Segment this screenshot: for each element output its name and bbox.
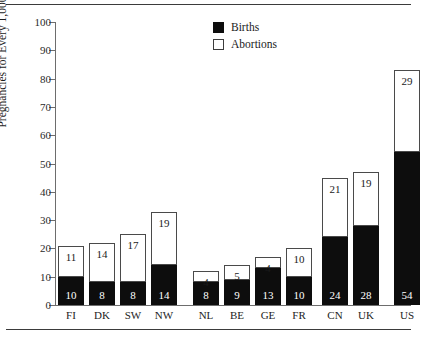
- y-axis-tick-label: 30: [40, 212, 51, 228]
- bar-value-births: 13: [256, 289, 280, 301]
- x-axis-tick-label-us: US: [387, 308, 424, 322]
- bar-nl[interactable]: 84: [193, 271, 219, 305]
- bar-value-abortions: 10: [287, 253, 311, 265]
- bar-value-abortions: 19: [152, 217, 176, 229]
- bottom-divider-rule: [6, 329, 411, 330]
- bar-value-births: 10: [59, 289, 83, 301]
- y-axis-title: Pregnancies for Every 1,000 Women: [0, 0, 8, 163]
- bar-nw[interactable]: 1419: [151, 212, 177, 305]
- y-axis-tick-label: 80: [40, 71, 51, 87]
- x-axis-tick-label-fr: FR: [279, 308, 319, 322]
- bar-segment-abortions: 4: [193, 271, 219, 282]
- y-axis-tick-label: 10: [40, 269, 51, 285]
- bar-value-births: 10: [287, 289, 311, 301]
- y-axis-tick-label: 60: [40, 127, 51, 143]
- bar-segment-abortions: 17: [120, 234, 146, 282]
- bar-value-births: 9: [225, 289, 249, 301]
- legend-label-abortions: Abortions: [231, 38, 277, 50]
- x-axis-tick-label-uk: UK: [346, 308, 386, 322]
- y-axis-tick-label: 40: [40, 184, 51, 200]
- bar-fr[interactable]: 1010: [286, 248, 312, 305]
- bar-uk[interactable]: 2819: [353, 172, 379, 305]
- bar-value-abortions: 5: [225, 270, 249, 282]
- bar-segment-abortions: 19: [151, 212, 177, 266]
- bar-value-births: 8: [194, 289, 218, 301]
- bar-fi[interactable]: 1011: [58, 246, 84, 305]
- chart-legend: Births Abortions: [213, 21, 277, 55]
- bar-segment-abortions: 10: [286, 248, 312, 276]
- bar-cn[interactable]: 2421: [322, 178, 348, 305]
- bar-segment-births: 10: [286, 277, 312, 305]
- bar-segment-births: 9: [224, 280, 250, 305]
- bar-segment-births: 54: [394, 152, 420, 305]
- bar-sw[interactable]: 817: [120, 234, 146, 305]
- x-axis-line: [55, 305, 411, 306]
- bar-segment-abortions: 29: [394, 70, 420, 152]
- bar-dk[interactable]: 814: [89, 243, 115, 305]
- bar-segment-births: 28: [353, 226, 379, 305]
- y-axis-tick-label: 70: [40, 99, 51, 115]
- bar-segment-births: 8: [120, 282, 146, 305]
- bar-value-abortions: 11: [59, 251, 83, 263]
- y-axis-tick-label: 100: [35, 14, 52, 30]
- bar-value-abortions: 21: [323, 183, 347, 195]
- y-axis-tick-label: 90: [40, 42, 51, 58]
- bar-value-births: 28: [354, 289, 378, 301]
- hollow-square-icon: [213, 39, 224, 50]
- legend-item-abortions: Abortions: [213, 38, 277, 50]
- bar-value-births: 8: [121, 289, 145, 301]
- bar-segment-births: 14: [151, 265, 177, 305]
- y-axis-tick-label: 50: [40, 156, 51, 172]
- bar-ge[interactable]: 134: [255, 257, 281, 305]
- bar-value-births: 54: [395, 289, 419, 301]
- bar-value-abortions: 19: [354, 177, 378, 189]
- bar-value-abortions: 14: [90, 248, 114, 260]
- top-divider-rule: [6, 4, 411, 5]
- bar-segment-births: 8: [89, 282, 115, 305]
- bar-segment-abortions: 19: [353, 172, 379, 226]
- bar-segment-abortions: 11: [58, 246, 84, 277]
- bar-value-abortions: 4: [256, 262, 280, 274]
- y-axis-tick-label: 20: [40, 240, 51, 256]
- bar-segment-births: 10: [58, 277, 84, 305]
- bar-value-births: 8: [90, 289, 114, 301]
- bar-segment-births: 24: [322, 237, 348, 305]
- legend-label-births: Births: [231, 21, 259, 33]
- bar-segment-abortions: 21: [322, 178, 348, 237]
- bar-segment-abortions: 5: [224, 265, 250, 279]
- bar-value-births: 24: [323, 289, 347, 301]
- plot-area: 1011814817141984951341010242128195429: [55, 22, 411, 305]
- bar-segment-abortions: 14: [89, 243, 115, 283]
- x-axis-tick-label-nw: NW: [144, 308, 184, 322]
- legend-item-births: Births: [213, 21, 277, 33]
- bar-value-abortions: 4: [194, 276, 218, 288]
- bar-value-abortions: 29: [395, 75, 419, 87]
- bar-value-abortions: 17: [121, 239, 145, 251]
- bar-segment-abortions: 4: [255, 257, 281, 268]
- bar-us[interactable]: 5429: [394, 70, 420, 305]
- bar-value-births: 14: [152, 289, 176, 301]
- bar-be[interactable]: 95: [224, 265, 250, 305]
- filled-square-icon: [213, 22, 224, 33]
